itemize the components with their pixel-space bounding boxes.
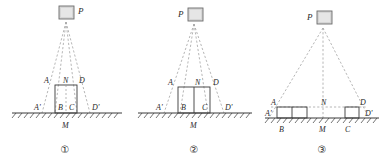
ground-hatching (265, 118, 377, 123)
label-top-D: D (359, 98, 366, 107)
label-base-D-prime: D' (224, 103, 233, 112)
label-top-N: N (194, 78, 201, 87)
label-top-A: A (43, 76, 49, 85)
ray-inner-left (180, 24, 194, 113)
ray-outer-left (164, 24, 194, 113)
ray-inner-left (55, 22, 66, 113)
label-base-B: B (279, 125, 284, 134)
ray-outer-right (66, 22, 90, 113)
ray-inner-right (194, 24, 208, 113)
label-ground-M: M (189, 121, 198, 130)
label-base-A-prime: A' (155, 103, 163, 112)
label-ground-M: M (318, 125, 327, 134)
label-base-C: C (345, 125, 351, 134)
label-top-A: A (167, 78, 173, 87)
label-base-B: B (181, 103, 186, 112)
label-base-B: B (58, 103, 63, 112)
label-base-A-prime: A' (264, 109, 272, 118)
label-base-D-prime: D' (364, 109, 373, 118)
panel-2-caption: ② (128, 144, 260, 155)
panel-1: P A N D A' B C D' M ① (0, 0, 130, 158)
label-top-A: A (270, 98, 276, 107)
panel-3-drawing: P A N D A' B C D' M (257, 0, 387, 150)
lamp-inner-glow (190, 10, 201, 19)
panel-2: P A N D A' B C D' M ② (128, 0, 260, 158)
label-base-D-prime: D' (91, 103, 100, 112)
label-ground-M: M (61, 121, 70, 130)
ray-inner-right (66, 22, 77, 113)
lamp-inner-glow (319, 13, 330, 22)
source-label: P (306, 12, 313, 22)
ground-hatching (12, 113, 118, 118)
block-right-outline (345, 107, 359, 118)
label-top-D: D (78, 76, 85, 85)
label-base-A-prime: A' (33, 103, 41, 112)
label-base-C: C (202, 103, 208, 112)
panel-1-caption: ① (0, 144, 130, 155)
label-base-C: C (69, 103, 75, 112)
ray-outer-left (42, 22, 66, 113)
panel-3-caption: ③ (257, 144, 387, 155)
panel-3: P A N D A' B C D' M ③ (257, 0, 387, 158)
ray-outer-left (269, 28, 323, 118)
label-top-N: N (62, 76, 69, 85)
source-label: P (177, 9, 184, 19)
label-top-D: D (212, 78, 219, 87)
lamp-inner-glow (61, 8, 72, 17)
ground-hatching (138, 113, 250, 118)
label-top-N: N (320, 98, 327, 107)
panel-2-drawing: P A N D A' B C D' M (128, 0, 260, 150)
figure-canvas: P A N D A' B C D' M ① (0, 0, 387, 158)
panel-1-drawing: P A N D A' B C D' M (0, 0, 130, 150)
ray-outer-right (194, 24, 224, 113)
source-label: P (77, 6, 84, 16)
